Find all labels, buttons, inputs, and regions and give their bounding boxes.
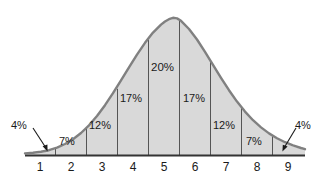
axis-tick-label-7: 7 [216,161,236,173]
percent-label-stanine-1: 4% [11,120,27,131]
axis-tick-label-6: 6 [185,161,205,173]
percent-label-stanine-4: 17% [120,93,142,104]
percent-label-stanine-3: 12% [89,120,111,131]
percent-label-stanine-2: 7% [59,136,75,147]
axis-tick-label-3: 3 [92,161,112,173]
axis-tick-label-9: 9 [278,161,298,173]
stanine-distribution-chart: 4% 7% 12% 17% 20% 17% 12% 7% 4% 1 2 3 4 … [0,0,326,181]
percent-label-stanine-7: 12% [213,120,235,131]
percent-label-stanine-8: 7% [246,136,262,147]
percent-label-stanine-5: 20% [151,62,174,74]
left-callout-arrow [33,128,48,152]
axis-tick-label-5: 5 [154,161,174,173]
percent-label-stanine-9: 4% [295,120,311,131]
percent-label-stanine-6: 17% [183,93,205,104]
bell-curve-graphic [0,0,326,181]
axis-tick-label-4: 4 [123,161,143,173]
axis-tick-label-8: 8 [247,161,267,173]
axis-tick-label-2: 2 [61,161,81,173]
axis-tick-label-1: 1 [30,161,50,173]
